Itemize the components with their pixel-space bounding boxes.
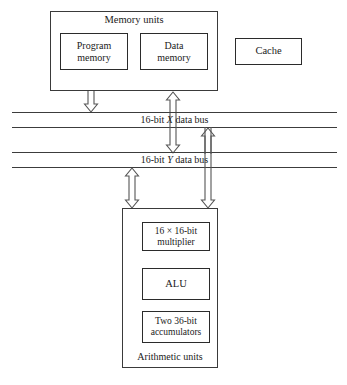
y-bus-line-top: [12, 152, 337, 153]
alu-label: ALU: [165, 278, 187, 290]
program-memory-block: Program memory: [60, 33, 128, 70]
cache-label: Cache: [255, 45, 281, 57]
alu-block: ALU: [142, 268, 210, 300]
data-memory-label: Data memory: [157, 40, 190, 63]
memory-units-label: Memory units: [50, 14, 218, 25]
cache-block: Cache: [235, 38, 302, 65]
arithmetic-units-label: Arithmetic units: [122, 351, 218, 362]
multiplier-block: 16 × 16-bit multiplier: [142, 222, 210, 251]
y-bus-label: 16-bit Y data bus: [12, 154, 337, 165]
arrow-x-bus-to-y-bus-down-icon: [165, 127, 181, 154]
arrow-arithmetic-units-to-y-bus-icon: [124, 167, 140, 209]
data-memory-block: Data memory: [140, 33, 208, 70]
dsp-datapath-diagram: Memory units Program memory Data memory …: [0, 0, 347, 385]
arrow-y-bus-to-arithmetic-units-icon: [200, 167, 216, 209]
x-bus-line-top: [12, 112, 337, 113]
x-bus-label: 16-bit X data bus: [12, 114, 337, 125]
accumulators-block: Two 36-bit accumulators: [142, 311, 210, 343]
y-bus-line-bottom: [12, 167, 337, 168]
arrow-y-bus-to-x-bus-up-icon: [200, 127, 216, 154]
multiplier-label: 16 × 16-bit multiplier: [155, 226, 197, 248]
arrow-program-memory-to-x-bus-icon: [83, 91, 99, 113]
program-memory-label: Program memory: [77, 40, 111, 63]
accumulators-label: Two 36-bit accumulators: [151, 316, 202, 338]
